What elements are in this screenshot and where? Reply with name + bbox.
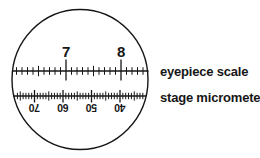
stage-micrometer: 70605040 xyxy=(13,90,146,114)
eyepiece-number-7: 7 xyxy=(62,43,70,60)
stage-number-60: 60 xyxy=(57,102,69,114)
stage-number-50: 50 xyxy=(86,102,98,114)
micrometer-comparison-diagram: 78 70605040 eyepiece scale stage microme… xyxy=(0,0,260,158)
eyepiece-number-8: 8 xyxy=(117,43,125,60)
stage-number-40: 40 xyxy=(114,102,126,114)
eyepiece-scale: 78 xyxy=(13,43,149,81)
stage-micrometer-label: stage micrometer xyxy=(160,90,260,105)
eyepiece-scale-label: eyepiece scale xyxy=(160,64,248,79)
micrometer-svg: 78 70605040 eyepiece scale stage microme… xyxy=(0,0,260,158)
stage-number-70: 70 xyxy=(29,102,41,114)
field-of-view-circle xyxy=(12,10,148,150)
